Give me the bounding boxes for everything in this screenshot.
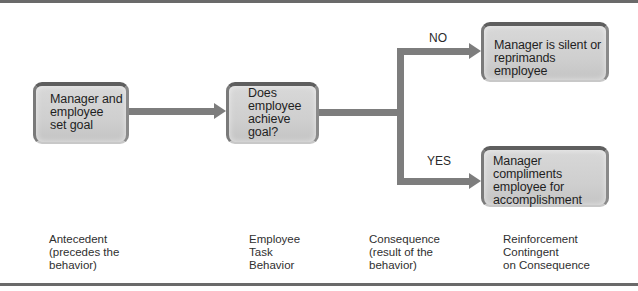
antecedent-box: Manager and employee set goal (33, 82, 129, 144)
antecedent-box-text: Manager and employee set goal (50, 93, 123, 132)
bottom-rule (0, 283, 638, 286)
arrow-no-branch (397, 48, 470, 55)
yes-outcome-box-text: Manager compliments employee for accompl… (493, 155, 606, 207)
split-vertical-line (397, 48, 404, 185)
arrowhead-right-icon (469, 43, 481, 59)
no-outcome-box: Manager is silent or reprimands employee (481, 22, 609, 82)
arrow-antecedent-to-decision (129, 108, 215, 115)
decision-box-text: Does employee achieve goal? (248, 87, 301, 139)
column-label-antecedent: Antecedent (precedes the behavior) (49, 233, 119, 272)
no-branch-label: NO (429, 31, 447, 45)
arrow-yes-branch (397, 178, 470, 185)
decision-box: Does employee achieve goal? (226, 82, 319, 144)
column-label-consequence: Consequence (result of the behavior) (369, 233, 440, 272)
no-outcome-box-text: Manager is silent or reprimands employee (494, 39, 606, 78)
yes-outcome-box: Manager compliments employee for accompl… (481, 146, 609, 207)
top-rule (0, 0, 638, 3)
yes-branch-label: YES (427, 154, 451, 168)
arrowhead-right-icon (469, 173, 481, 189)
column-label-reinforcement: Reinforcement Contingent on Consequence (503, 233, 590, 272)
arrowhead-right-icon (214, 103, 226, 119)
column-label-behavior: Employee Task Behavior (249, 233, 300, 272)
connector-decision-to-split (319, 109, 404, 116)
